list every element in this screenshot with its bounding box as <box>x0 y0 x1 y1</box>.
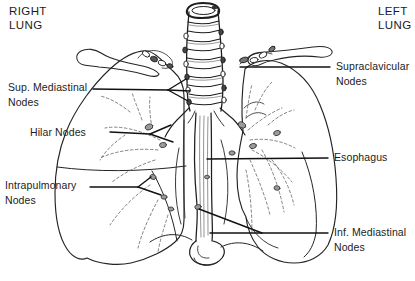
supraclavicular-line2: Nodes <box>336 74 409 89</box>
leader-intrapulmonary <box>90 177 161 195</box>
supraclavicular-line1: Supraclavicular <box>336 59 409 74</box>
leader-lines <box>90 67 330 233</box>
esophagus-tube <box>190 113 225 265</box>
leader-sup-mediastinal <box>93 79 190 101</box>
hilar-intrapulmonary-nodes <box>144 121 281 212</box>
esophagus-label: Esophagus <box>334 150 387 165</box>
left-lung-label-line2: LUNG <box>378 19 412 33</box>
intrapulmonary-line1: Intrapulmonary <box>5 178 76 193</box>
right-lung-label-line1: RIGHT <box>9 5 47 19</box>
right-lung-label-line2: LUNG <box>9 19 47 33</box>
hilar-nodes-label: Hilar Nodes <box>30 125 86 140</box>
left-lung-label-line1: LEFT <box>378 5 412 19</box>
sup-mediastinal-line1: Sup. Mediastinal <box>8 80 87 95</box>
esophagus-line1: Esophagus <box>334 150 387 165</box>
trachea <box>165 3 245 137</box>
lung-diagram-page: RIGHT LUNG LEFT LUNG Sup. Mediastinal No… <box>0 0 415 281</box>
vascular-markings <box>100 82 295 252</box>
inf-mediastinal-line1: Inf. Mediastinal <box>334 225 406 240</box>
hilar-line1: Hilar Nodes <box>30 125 86 140</box>
right-lung-label: RIGHT LUNG <box>9 5 47 32</box>
left-lung-label: LEFT LUNG <box>378 5 412 32</box>
leader-inf-mediastinal <box>199 209 328 233</box>
supraclavicular-nodes-label: Supraclavicular Nodes <box>336 59 409 88</box>
intrapulmonary-nodes-label: Intrapulmonary Nodes <box>5 178 76 207</box>
sup-mediastinal-line2: Nodes <box>8 95 87 110</box>
inf-mediastinal-line2: Nodes <box>334 240 406 255</box>
intrapulmonary-line2: Nodes <box>5 193 76 208</box>
sup-mediastinal-nodes-label: Sup. Mediastinal Nodes <box>8 80 87 109</box>
leader-esophagus <box>207 158 328 159</box>
inf-mediastinal-nodes-label: Inf. Mediastinal Nodes <box>334 225 406 254</box>
